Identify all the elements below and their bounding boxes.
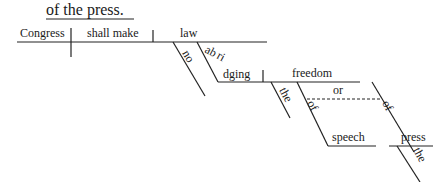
- object-word: law: [180, 26, 198, 40]
- the-press-word: the: [410, 145, 429, 165]
- the-freedom-word: the: [276, 85, 295, 105]
- freedom-word: freedom: [292, 66, 333, 80]
- of-press-word: of: [379, 98, 396, 113]
- header-text: of the press.: [46, 1, 124, 19]
- of-speech-word: of: [304, 98, 321, 113]
- verb-word: shall make: [87, 26, 139, 40]
- subject-word: Congress: [20, 26, 65, 40]
- no-word: no: [179, 47, 197, 64]
- sentence-diagram: of the press. Congress shall make law no…: [0, 0, 443, 182]
- press-word: press: [401, 130, 426, 144]
- speech-word: speech: [332, 130, 365, 144]
- abridging-word-end: dging: [223, 67, 250, 81]
- of-speech-line: [297, 82, 328, 146]
- conjunction-word: or: [333, 83, 343, 97]
